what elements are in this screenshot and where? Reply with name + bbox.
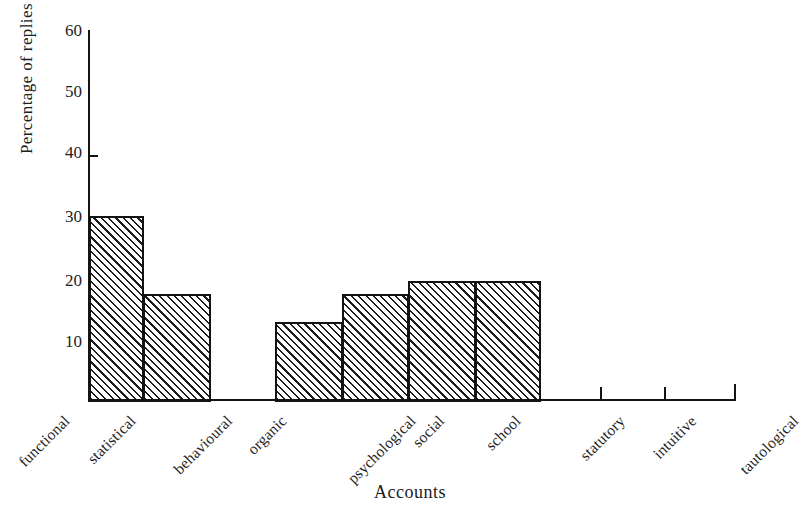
- x-tick-label-social: social: [409, 412, 447, 450]
- x-tick-label-school: school: [482, 412, 523, 453]
- x-axis-tick-intuitive: [600, 387, 602, 400]
- x-axis-end-tick: [734, 384, 736, 401]
- bar-psychological: [342, 294, 409, 402]
- x-tick-label-functional: functional: [15, 412, 73, 470]
- x-tick-label-statistical: statistical: [84, 412, 139, 467]
- x-axis-tick-tautological: [664, 387, 666, 400]
- plot-area: [0, 0, 774, 420]
- x-axis-title: Accounts: [320, 482, 500, 503]
- bar-organic: [275, 322, 343, 402]
- bar-functional: [89, 216, 144, 402]
- bar-social: [408, 281, 476, 402]
- x-tick-label-statutory: statutory: [576, 412, 628, 464]
- x-tick-label-intuitive: intuitive: [650, 412, 700, 462]
- x-axis-line: [88, 399, 736, 401]
- bar-statistical: [143, 294, 211, 402]
- x-tick-label-tautological: tautological: [736, 412, 801, 477]
- bar-school: [475, 281, 541, 402]
- x-tick-label-psychological: psychological: [344, 412, 419, 487]
- x-tick-label-organic: organic: [244, 412, 290, 458]
- x-tick-label-behavioural: behavioural: [170, 412, 235, 477]
